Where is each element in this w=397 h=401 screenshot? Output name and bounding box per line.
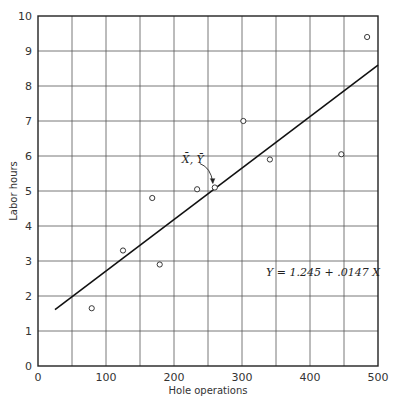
data-point [150,195,155,200]
y-tick: 4 [25,220,32,233]
data-point [157,262,162,267]
y-tick: 5 [25,185,32,198]
data-point [195,187,200,192]
y-axis-label: Labor hours [8,161,19,221]
x-tick: 400 [300,371,321,384]
x-tick-labels: 0100200300400500 [35,371,389,384]
y-tick: 2 [25,290,32,303]
grid-lines [38,16,378,366]
y-tick: 6 [25,150,32,163]
x-tick: 0 [35,371,42,384]
regression-equation: Y = 1.245 + .0147 X [266,266,381,279]
y-tick: 1 [25,325,32,338]
scatter-chart: 012345678910 0100200300400500 Hole opera… [0,0,397,401]
mean-label: X̄, Ȳ [181,152,206,165]
data-point [120,248,125,253]
arrowhead-icon [210,179,215,184]
y-tick: 8 [25,80,32,93]
data-point [365,34,370,39]
x-tick: 100 [96,371,117,384]
y-tick-labels: 012345678910 [18,10,32,373]
x-tick: 200 [164,371,185,384]
mean-marker [212,185,217,190]
y-tick: 3 [25,255,32,268]
x-tick: 300 [232,371,253,384]
x-tick: 500 [368,371,389,384]
y-tick: 7 [25,115,32,128]
y-tick: 10 [18,10,32,23]
data-point [339,152,344,157]
y-tick: 9 [25,45,32,58]
y-tick: 0 [25,360,32,373]
mean-point: X̄, Ȳ [181,152,218,190]
x-axis-label: Hole operations [169,385,248,396]
data-point [89,306,94,311]
data-point [241,118,246,123]
data-point [267,157,272,162]
